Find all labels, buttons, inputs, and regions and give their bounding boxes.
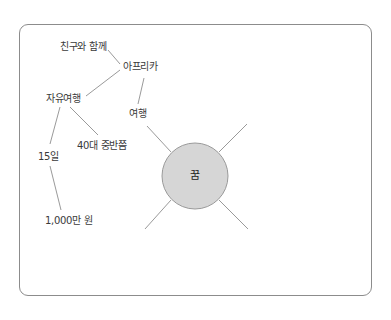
node-with-friends: 친구와 함께 (60, 41, 106, 53)
edge-freetravel-40s (70, 107, 98, 135)
node-free-travel: 자유여행 (46, 93, 81, 105)
spoke-to-travel (147, 126, 171, 152)
spoke-empty-sw (145, 200, 171, 229)
edge-freetravel-15days (50, 107, 60, 144)
node-travel: 여행 (129, 108, 146, 120)
edge-africa-freetravel (86, 70, 120, 96)
node-15-days: 15일 (38, 151, 59, 163)
edge-travel-africa (138, 78, 144, 104)
edge-africa-friends (108, 50, 120, 64)
center-node-label: 꿈 (175, 170, 215, 182)
node-mid-40s: 40대 중반쯤 (77, 140, 127, 152)
edge-15days-money (50, 166, 61, 210)
spoke-empty-se (219, 200, 248, 229)
node-africa: 아프리카 (123, 61, 158, 73)
spoke-empty-ne (219, 124, 247, 152)
node-10-million-won: 1,000만 원 (45, 215, 92, 227)
